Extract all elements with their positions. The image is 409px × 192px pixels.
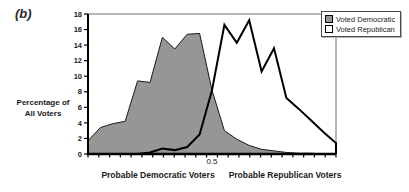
legend-item-republican: Voted Republican xyxy=(325,24,397,34)
y-tick-label: 12 xyxy=(74,56,82,65)
legend-label-democratic: Voted Democratic xyxy=(336,15,395,24)
y-tick-label: 16 xyxy=(74,25,82,34)
democratic-swatch-icon xyxy=(325,15,333,23)
y-tick-label: 6 xyxy=(78,103,82,112)
x-axis-center-tick-label: 0.5 xyxy=(192,157,232,166)
y-tick-label: 0 xyxy=(78,150,82,159)
chart-legend: Voted Democratic Voted Republican xyxy=(321,11,401,37)
republican-swatch-icon xyxy=(325,25,333,33)
y-tick-label: 18 xyxy=(74,10,82,19)
legend-item-democratic: Voted Democratic xyxy=(325,14,397,24)
y-tick-label: 14 xyxy=(74,41,83,50)
y-tick-label: 10 xyxy=(74,72,82,81)
x-axis-title-republican: Probable Republican Voters xyxy=(196,170,374,180)
y-tick-label: 2 xyxy=(78,134,82,143)
y-tick-label: 4 xyxy=(78,119,83,128)
y-tick-label: 8 xyxy=(78,87,82,96)
legend-label-republican: Voted Republican xyxy=(336,25,395,34)
